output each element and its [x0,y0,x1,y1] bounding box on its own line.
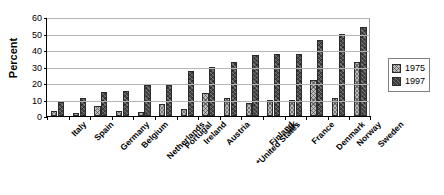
bar-chart: Percent 0102030405060 ItalySpainGermanyB… [0,0,444,195]
x-axis-label: Austria [225,120,252,147]
bar-1997-germany [101,92,107,116]
bar-1997-unitedstates [231,62,237,116]
y-tickmark [44,68,47,69]
bar-1997-ireland [188,71,194,116]
bar-1997-belgium [123,91,129,116]
bar-1975-france [289,100,295,116]
gridline [47,68,370,69]
bar-1997-austria [209,67,215,117]
y-tick-label: 0 [22,113,42,122]
y-axis-tick-labels: 0102030405060 [22,18,42,117]
x-tickmark [370,116,371,120]
y-tick-label: 30 [22,63,42,72]
y-tickmark [44,35,47,36]
bar-1997-norway [339,34,345,117]
bar-1975-spain [73,113,79,116]
y-tickmark [44,84,47,85]
y-tickmark [44,51,47,52]
bar-1997-sweden [360,27,366,116]
y-axis-title: Percent [7,23,19,93]
bar-1997-france [296,54,302,116]
plot-area [46,18,370,117]
chart-legend: 1975 1997 [388,58,430,92]
x-axis-label: Spain [93,120,115,142]
y-tick-label: 40 [22,47,42,56]
legend-label-1997: 1997 [405,77,425,86]
legend-swatch-1975-icon [392,64,401,73]
legend-swatch-1997-icon [392,77,401,86]
bar-1975-uk [267,100,273,117]
bar-1975-germany [94,106,100,116]
x-axis-category-labels: ItalySpainGermanyBelgiumNetherlandsPortu… [46,120,370,194]
bar-1975-italy [51,111,57,116]
bar-1975-belgium [116,111,122,116]
bar-1975-sweden [354,62,360,116]
gridline [47,18,370,19]
x-axis-label: Italy [70,120,88,138]
y-tick-label: 10 [22,96,42,105]
y-tick-label: 50 [22,30,42,39]
x-axis-label: France [311,120,337,146]
bar-1997-finland [252,55,258,116]
bar-1975-denmark [310,80,316,116]
legend-label-1975: 1975 [405,64,425,73]
bar-1975-finland [246,103,252,116]
gridline [47,51,370,52]
gridline [47,101,370,102]
bar-1975-netherlands [138,112,144,116]
bar-1997-italy [58,102,64,116]
y-tickmark [44,101,47,102]
legend-item-1975: 1975 [392,62,425,75]
y-tick-label: 20 [22,80,42,89]
legend-item-1997: 1997 [392,75,425,88]
y-tick-label: 60 [22,14,42,23]
bar-1975-austria [202,93,208,116]
bar-1975-ireland [181,109,187,116]
gridline [47,84,370,85]
gridline [47,35,370,36]
y-tickmark [44,18,47,19]
bar-1975-portugal [159,104,165,116]
bar-1997-uk [274,54,280,116]
